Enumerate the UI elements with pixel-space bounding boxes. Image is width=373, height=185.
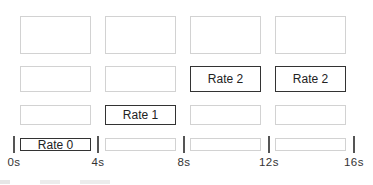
segment <box>275 105 346 125</box>
segment-label: Rate 2 <box>208 72 243 86</box>
segment <box>190 16 261 54</box>
segment <box>275 16 346 54</box>
segment <box>105 16 176 54</box>
segment <box>105 138 176 151</box>
segment <box>20 66 91 92</box>
timeline-tick <box>268 136 270 153</box>
timeline-tick <box>353 136 355 153</box>
timeline-tick-label: 12s <box>259 156 279 168</box>
segment <box>20 105 91 125</box>
segment <box>275 138 346 151</box>
segment-selected: Rate 1 <box>105 105 176 125</box>
segment <box>105 66 176 92</box>
timeline-tick <box>183 136 185 153</box>
segment-label: Rate 0 <box>38 138 73 152</box>
timeline-tick <box>97 136 99 153</box>
timeline-tick-label: 4s <box>91 156 104 168</box>
segment-selected: Rate 2 <box>275 66 346 92</box>
segment-selected: Rate 0 <box>20 138 91 151</box>
figure-caption-cutoff <box>0 180 200 184</box>
segment <box>190 105 261 125</box>
timeline-tick-label: 16s <box>344 156 364 168</box>
timeline-tick <box>13 136 15 153</box>
timeline-tick-label: 8s <box>177 156 190 168</box>
segment-selected: Rate 2 <box>190 66 261 92</box>
segment <box>20 16 91 54</box>
segment-label: Rate 1 <box>123 108 158 122</box>
timeline-tick-label: 0s <box>7 156 20 168</box>
segment-label: Rate 2 <box>293 72 328 86</box>
segment <box>190 138 261 151</box>
